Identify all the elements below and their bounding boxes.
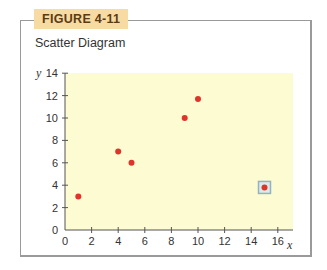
x-tick-label: 2 — [89, 235, 95, 247]
x-tick-label: 0 — [62, 235, 68, 247]
y-tick-label: 4 — [52, 179, 58, 191]
data-point — [182, 115, 188, 121]
x-tick-label: 8 — [168, 235, 174, 247]
y-tick-label: 14 — [46, 67, 58, 79]
data-point — [262, 184, 268, 190]
y-tick-label: 10 — [46, 112, 58, 124]
scatter-plot: 024681012140246810121416yx — [0, 0, 327, 270]
x-tick-label: 12 — [218, 235, 230, 247]
y-tick-label: 8 — [52, 134, 58, 146]
data-point — [115, 149, 121, 155]
y-tick-label: 12 — [46, 90, 58, 102]
data-point — [75, 193, 81, 199]
x-tick-label: 16 — [272, 235, 284, 247]
y-tick-label: 0 — [52, 224, 58, 236]
x-tick-label: 4 — [115, 235, 121, 247]
x-tick-label: 14 — [245, 235, 257, 247]
y-axis-label: y — [35, 66, 42, 80]
x-axis-label: x — [286, 238, 293, 252]
x-tick-label: 6 — [142, 235, 148, 247]
y-tick-label: 2 — [52, 202, 58, 214]
data-point — [195, 96, 201, 102]
plot-area — [65, 73, 293, 230]
x-tick-label: 10 — [192, 235, 204, 247]
y-tick-label: 6 — [52, 157, 58, 169]
data-point — [129, 160, 135, 166]
